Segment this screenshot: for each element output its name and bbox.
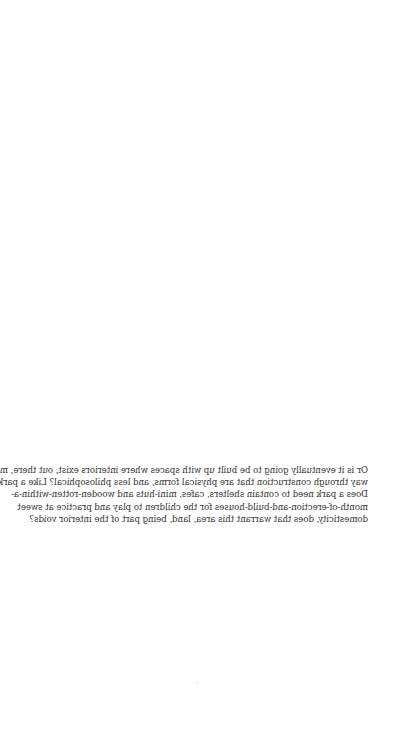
mirrored-text-block: Or is it eventually going to be built up… bbox=[20, 464, 368, 525]
faint-mark bbox=[196, 682, 198, 684]
paragraph-line-1: Or is it eventually going to be built up… bbox=[20, 464, 368, 476]
body-paragraph: Or is it eventually going to be built up… bbox=[20, 464, 368, 525]
paragraph-line-3: Does a park need to contain shelters, ca… bbox=[20, 488, 368, 500]
paragraph-line-5: domesticity, does that warrant this area… bbox=[20, 513, 368, 525]
paragraph-line-2: way through construction that are physic… bbox=[20, 476, 368, 488]
paragraph-line-4: month-of-erection-and-build-houses for t… bbox=[20, 501, 368, 513]
document-page: Or is it eventually going to be built up… bbox=[0, 0, 407, 750]
